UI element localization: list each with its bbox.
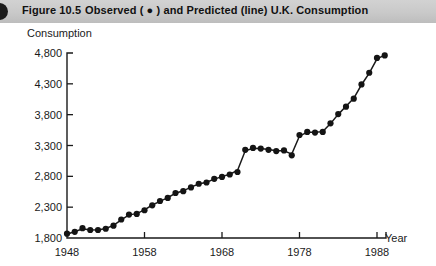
observed-data-point (141, 207, 147, 213)
observed-data-point (72, 229, 78, 235)
x-tick-label: 1958 (132, 246, 156, 258)
y-tick-label: 2,800 (34, 170, 62, 182)
y-axis-tick-labels: 1,8002,3002,8003,3003,8004,3004,800 (34, 47, 62, 244)
observed-data-point (374, 55, 380, 61)
observed-data-point (79, 225, 85, 231)
observed-data-point (320, 129, 326, 135)
observed-data-point (157, 198, 163, 204)
y-axis-title-text: Consumption (27, 27, 92, 39)
observed-data-point (351, 96, 357, 102)
observed-data-point (250, 145, 256, 151)
x-tick-label: 1968 (210, 246, 234, 258)
observed-data-point (110, 223, 116, 229)
observed-data-point (196, 181, 202, 187)
observed-data-point (335, 111, 341, 117)
observed-data-point (165, 195, 171, 201)
observed-data-point (134, 211, 140, 217)
observed-data-point (289, 152, 295, 158)
observed-data-point (95, 227, 101, 233)
observed-data-point (343, 104, 349, 110)
predicted-line-path (67, 55, 385, 234)
observed-data-point (273, 148, 279, 154)
observed-data-point (258, 145, 264, 151)
observed-data-point (327, 120, 333, 126)
observed-data-point (103, 226, 109, 232)
x-tick-label: 1948 (55, 246, 79, 258)
observed-data-point (227, 171, 233, 177)
x-tick-label: 1988 (365, 246, 389, 258)
observed-data-point (281, 147, 287, 153)
observed-data-point (64, 231, 70, 237)
figure-header-banner: Figure 10.5 Observed ( ● ) and Predicted… (0, 0, 436, 23)
observed-data-point (118, 216, 124, 222)
figure-number-label: Figure 10.5 (22, 4, 81, 16)
y-tick-label: 4,300 (34, 78, 62, 90)
consumption-time-series-chart: Consumption 1,8002,3002,8003,3003,8004,3… (0, 23, 436, 266)
y-tick-label: 3,300 (34, 140, 62, 152)
observed-data-point (312, 129, 318, 135)
x-tick-label: 1978 (287, 246, 311, 258)
observed-data-point (203, 179, 209, 185)
observed-data-point (149, 202, 155, 208)
observed-data-point (304, 129, 310, 135)
observed-data-point (180, 188, 186, 194)
x-axis-title: Year (385, 232, 408, 244)
y-tick-label: 2,300 (34, 201, 62, 213)
predicted-series-line (67, 55, 385, 234)
observed-data-point (296, 132, 302, 138)
observed-data-point (358, 81, 364, 87)
observed-data-point (126, 211, 132, 217)
observed-data-point (188, 184, 194, 190)
y-tick-label: 1,800 (34, 232, 62, 244)
observed-data-point (219, 174, 225, 180)
x-axis-tick-labels: 19481958196819781988 (55, 246, 389, 258)
observed-data-point (234, 169, 240, 175)
axis-tick-marks (67, 84, 377, 238)
y-axis-title: Consumption (27, 27, 92, 39)
y-tick-label: 4,800 (34, 47, 62, 59)
observed-data-point (211, 176, 217, 182)
y-tick-label: 3,800 (34, 109, 62, 121)
axis-spine (67, 53, 386, 238)
chart-plot-container: Consumption 1,8002,3002,8003,3003,8004,3… (0, 23, 436, 266)
observed-data-point (366, 70, 372, 76)
observed-data-point (265, 147, 271, 153)
observed-series-markers (64, 52, 388, 236)
observed-data-point (87, 227, 93, 233)
axis-lines (67, 53, 386, 238)
figure-caption-label: Observed ( ● ) and Predicted (line) U.K.… (85, 4, 368, 16)
observed-data-point (172, 190, 178, 196)
x-axis-title-text: Year (385, 232, 408, 244)
observed-data-point (382, 52, 388, 58)
filled-circle-icon (0, 3, 8, 20)
observed-data-point (242, 147, 248, 153)
